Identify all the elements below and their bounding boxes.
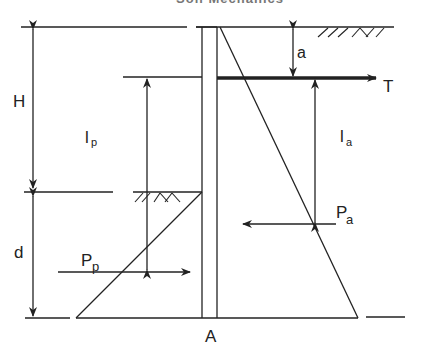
label-H: H [13,92,25,111]
ground-hatch-left [135,193,180,202]
label-Pp: P p [81,251,99,274]
svg-text:a: a [346,136,353,148]
svg-text:P: P [81,251,92,270]
svg-text:a: a [346,212,354,227]
active-pressure-line [220,27,358,318]
svg-text:p: p [91,136,97,148]
diagram-svg: H d a T A l p l a P p P a [0,0,422,349]
label-a: a [297,44,306,61]
svg-text:l: l [340,127,344,146]
svg-text:p: p [92,259,99,274]
label-Pa: P a [336,203,354,227]
svg-text:l: l [85,128,89,147]
label-lp: l p [85,128,97,148]
passive-pressure-line [76,192,202,318]
label-T: T [383,77,393,96]
label-A: A [205,327,217,346]
sheet-pile-wall-diagram: Soil Mechanics [0,0,422,349]
label-la: l a [340,127,353,148]
label-d: d [14,243,23,262]
ground-hatch-right [318,28,384,37]
